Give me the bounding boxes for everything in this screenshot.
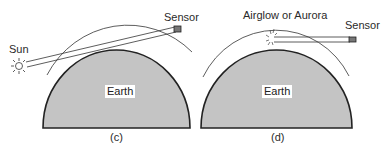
sensor-icon-c [174,26,181,32]
sensor-label-d: Sensor [345,20,380,31]
panel-c [11,25,192,128]
caption-c: (c) [110,132,123,143]
caption-d: (d) [271,132,284,143]
panel-d [201,29,356,128]
sensor-icon-d [349,37,356,42]
earth-label-d: Earth [262,85,292,98]
sun-label: Sun [9,44,29,55]
sensor-label-c: Sensor [164,12,199,23]
emission-label: Airglow or Aurora [243,10,327,21]
earth-label-c: Earth [105,85,135,98]
sun-icon [11,58,25,74]
